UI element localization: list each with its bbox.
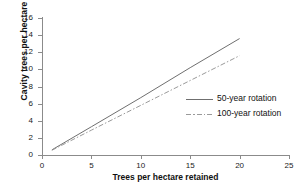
legend-swatch-100-year <box>186 114 213 115</box>
legend-label-50-year: 50-year rotation <box>217 93 277 103</box>
legend-item-100-year: 100-year rotation <box>186 107 304 122</box>
legend-swatch-50-year <box>186 99 213 100</box>
legend-label-100-year: 100-year rotation <box>217 108 281 118</box>
legend-item-50-year: 50-year rotation <box>186 92 304 107</box>
chart-figure: Cavity trees per hectare Trees per hecta… <box>0 0 307 193</box>
chart-legend: 50-year rotation 100-year rotation <box>186 92 304 122</box>
